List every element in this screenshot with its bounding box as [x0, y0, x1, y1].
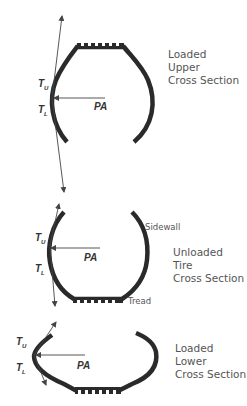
upper-pa-label: PA [94, 101, 107, 112]
lower-tu-arrow [34, 322, 56, 355]
lower-tl-label: TL [16, 362, 26, 375]
lower-tu-label: TU [16, 336, 26, 349]
upper-tu-label: TU [38, 78, 48, 91]
unloaded-tl-label: TL [35, 263, 45, 276]
upper-tire-body [52, 47, 153, 142]
lower-tire-body [34, 333, 156, 390]
lower-pa-label: PA [77, 360, 90, 371]
unloaded-tire-section [49, 204, 147, 306]
upper-tu-arrow [52, 16, 62, 98]
sidewall-label: Sidewall [145, 221, 180, 233]
tread-label: Tread [128, 295, 151, 307]
upper-tl-arrow [52, 98, 64, 192]
upper-caption: Loaded Upper Cross Section [168, 48, 239, 87]
upper-tl-label: TL [38, 104, 48, 117]
unloaded-tu-label: TU [35, 232, 45, 245]
lower-caption: Loaded Lower Cross Section [175, 342, 246, 381]
lower-tire-section [34, 322, 156, 394]
unloaded-tire-body [49, 212, 147, 299]
unloaded-caption: Unloaded Tire Cross Section [173, 246, 244, 285]
unloaded-pa-label: PA [84, 252, 97, 263]
lower-tl-arrow [34, 355, 46, 385]
